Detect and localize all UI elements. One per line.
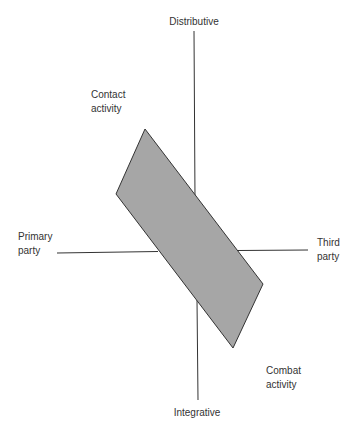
region-label-contact-activity: Contact activity <box>91 88 125 116</box>
contact-text: Contact <box>91 88 125 102</box>
integrative-text: Integrative <box>161 406 233 420</box>
third-text: Third <box>317 236 340 250</box>
horizontal-axis-right <box>238 250 308 251</box>
vertical-axis-bottom <box>197 300 198 400</box>
primary-text: Primary <box>18 230 52 244</box>
activity-text: activity <box>266 378 301 392</box>
party-text: party <box>18 244 52 258</box>
region-label-combat-activity: Combat activity <box>266 364 301 392</box>
party-text: party <box>317 250 340 264</box>
axis-label-primary-party: Primary party <box>18 230 52 258</box>
activity-text: activity <box>91 102 125 116</box>
diagram-canvas <box>0 0 356 433</box>
axis-label-third-party: Third party <box>317 236 340 264</box>
combat-text: Combat <box>266 364 301 378</box>
horizontal-axis-left <box>57 252 158 254</box>
vertical-axis-top <box>194 31 195 200</box>
axis-label-integrative: Integrative <box>161 406 233 420</box>
activity-parallelogram <box>116 129 263 348</box>
axis-label-distributive: Distributive <box>158 15 230 29</box>
distributive-text: Distributive <box>158 15 230 29</box>
